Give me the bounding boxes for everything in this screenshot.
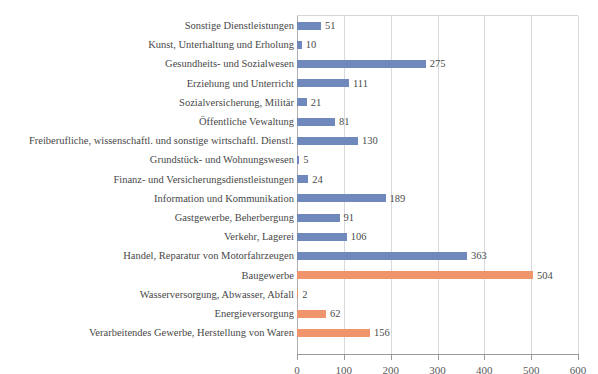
bar[interactable] <box>297 98 307 106</box>
category-label: Information und Kommunikation <box>0 189 294 208</box>
bar[interactable] <box>297 271 533 279</box>
chart-row: Verarbeitendes Gewerbe, Herstellung von … <box>0 323 598 342</box>
x-axis-tick-label: 0 <box>294 364 300 374</box>
bar[interactable] <box>297 252 467 260</box>
bar-value-label: 156 <box>374 323 390 342</box>
bar[interactable] <box>297 41 302 49</box>
bar[interactable] <box>297 214 340 222</box>
bar-chart: 0100200300400500600 Sonstige Dienstleist… <box>0 0 598 374</box>
bar-value-label: 130 <box>362 131 378 150</box>
bar-value-label: 51 <box>325 16 336 35</box>
chart-row: Finanz- und Versicherungsdienstleistunge… <box>0 170 598 189</box>
category-label: Handel, Reparatur von Motorfahrzeugen <box>0 246 294 265</box>
bar-value-label: 2 <box>302 285 307 304</box>
chart-row: Handel, Reparatur von Motorfahrzeugen363 <box>0 246 598 265</box>
category-label: Verkehr, Lagerei <box>0 227 294 246</box>
bar-value-label: 91 <box>344 208 355 227</box>
bar-group: 363 <box>297 246 487 265</box>
bar-group: 62 <box>297 304 341 323</box>
bar-group: 2 <box>297 285 307 304</box>
x-axis-tick-label: 400 <box>476 364 493 374</box>
bar[interactable] <box>297 233 347 241</box>
bar-value-label: 21 <box>311 93 322 112</box>
bar[interactable] <box>297 194 386 202</box>
bar-group: 111 <box>297 74 368 93</box>
category-label: Finanz- und Versicherungsdienstleistunge… <box>0 170 294 189</box>
category-label: Kunst, Unterhaltung und Erholung <box>0 35 294 54</box>
bar[interactable] <box>297 156 299 164</box>
bar-value-label: 5 <box>303 150 308 169</box>
chart-row: Gesundheits- und Sozialwesen275 <box>0 54 598 73</box>
bar[interactable] <box>297 60 426 68</box>
bar-value-label: 24 <box>312 170 323 189</box>
category-label: Wasserversorgung, Abwasser, Abfall <box>0 285 294 304</box>
chart-row: Freiberufliche, wissenschaftl. und sonst… <box>0 131 598 150</box>
bar[interactable] <box>297 22 321 30</box>
category-label: Energieversorgung <box>0 304 294 323</box>
chart-row: Sonstige Dienstleistungen51 <box>0 16 598 35</box>
bar-group: 91 <box>297 208 354 227</box>
chart-row: Sozialversicherung, Militär21 <box>0 93 598 112</box>
category-label: Freiberufliche, wissenschaftl. und sonst… <box>0 131 294 150</box>
chart-row: Energieversorgung62 <box>0 304 598 323</box>
x-axis-tick-label: 300 <box>429 364 446 374</box>
chart-row: Gastgewerbe, Beherbergung91 <box>0 208 598 227</box>
bar-group: 81 <box>297 112 349 131</box>
bar-value-label: 189 <box>390 189 406 208</box>
category-label: Sonstige Dienstleistungen <box>0 16 294 35</box>
category-label: Öffentliche Vewaltung <box>0 112 294 131</box>
category-label: Grundstück- und Wohnungswesen <box>0 150 294 169</box>
bar-value-label: 106 <box>351 227 367 246</box>
bar-group: 130 <box>297 131 378 150</box>
bar[interactable] <box>297 290 298 298</box>
bar-group: 24 <box>297 170 323 189</box>
chart-row: Kunst, Unterhaltung und Erholung10 <box>0 35 598 54</box>
chart-row: Verkehr, Lagerei106 <box>0 227 598 246</box>
category-label: Sozialversicherung, Militär <box>0 93 294 112</box>
bar[interactable] <box>297 118 335 126</box>
bar-value-label: 111 <box>353 74 368 93</box>
bar[interactable] <box>297 329 370 337</box>
chart-row: Wasserversorgung, Abwasser, Abfall2 <box>0 285 598 304</box>
bar-value-label: 275 <box>430 54 446 73</box>
bar-value-label: 10 <box>306 35 317 54</box>
bar-group: 106 <box>297 227 366 246</box>
x-axis-tick-label: 500 <box>523 364 540 374</box>
cut-off-text-above <box>0 0 598 3</box>
chart-row: Grundstück- und Wohnungswesen5 <box>0 150 598 169</box>
bar[interactable] <box>297 310 326 318</box>
chart-row: Information und Kommunikation189 <box>0 189 598 208</box>
chart-row: Öffentliche Vewaltung81 <box>0 112 598 131</box>
category-label: Verarbeitendes Gewerbe, Herstellung von … <box>0 323 294 342</box>
bar-value-label: 504 <box>537 266 553 285</box>
category-label: Baugewerbe <box>0 266 294 285</box>
bar-value-label: 81 <box>339 112 350 131</box>
x-axis-tick-label: 100 <box>336 364 353 374</box>
bar-value-label: 363 <box>471 246 487 265</box>
category-label: Erziehung und Unterricht <box>0 74 294 93</box>
bar[interactable] <box>297 79 349 87</box>
chart-rows: Sonstige Dienstleistungen51Kunst, Unterh… <box>0 15 598 355</box>
bar-group: 21 <box>297 93 321 112</box>
bar-group: 504 <box>297 266 553 285</box>
bar[interactable] <box>297 175 308 183</box>
bar-group: 5 <box>297 150 309 169</box>
bar-value-label: 62 <box>330 304 341 323</box>
bar-group: 10 <box>297 35 316 54</box>
category-label: Gastgewerbe, Beherbergung <box>0 208 294 227</box>
category-label: Gesundheits- und Sozialwesen <box>0 54 294 73</box>
bar-group: 189 <box>297 189 405 208</box>
bar[interactable] <box>297 137 358 145</box>
bar-group: 275 <box>297 54 446 73</box>
bar-group: 51 <box>297 16 335 35</box>
x-axis-tick-label: 200 <box>382 364 399 374</box>
x-axis-tick-label: 600 <box>570 364 587 374</box>
chart-row: Erziehung und Unterricht111 <box>0 74 598 93</box>
bar-group: 156 <box>297 323 390 342</box>
chart-row: Baugewerbe504 <box>0 266 598 285</box>
